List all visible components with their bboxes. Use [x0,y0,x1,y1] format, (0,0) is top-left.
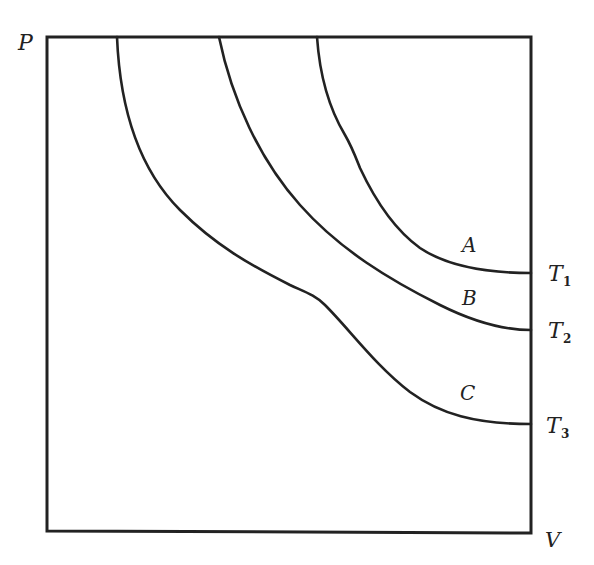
x-axis-label: V [545,528,562,552]
temperature-t3-subscript: 3 [561,427,569,441]
pv-diagram: P V A B C T 1 T 2 T 3 [0,0,594,565]
temperature-label-t3: T 3 [546,413,569,441]
temperature-label-t2: T 2 [548,318,571,346]
temperature-t1-subscript: 1 [563,275,571,289]
curve-label-b: B [461,286,477,310]
y-axis-label: P [17,30,34,55]
temperature-label-t1: T 1 [548,261,571,289]
curve-label-a: A [460,233,476,257]
isotherm-curve-a [317,37,531,273]
curve-label-c: C [460,381,475,405]
isotherm-curve-b [219,37,531,330]
temperature-t2-subscript: 2 [563,332,571,346]
